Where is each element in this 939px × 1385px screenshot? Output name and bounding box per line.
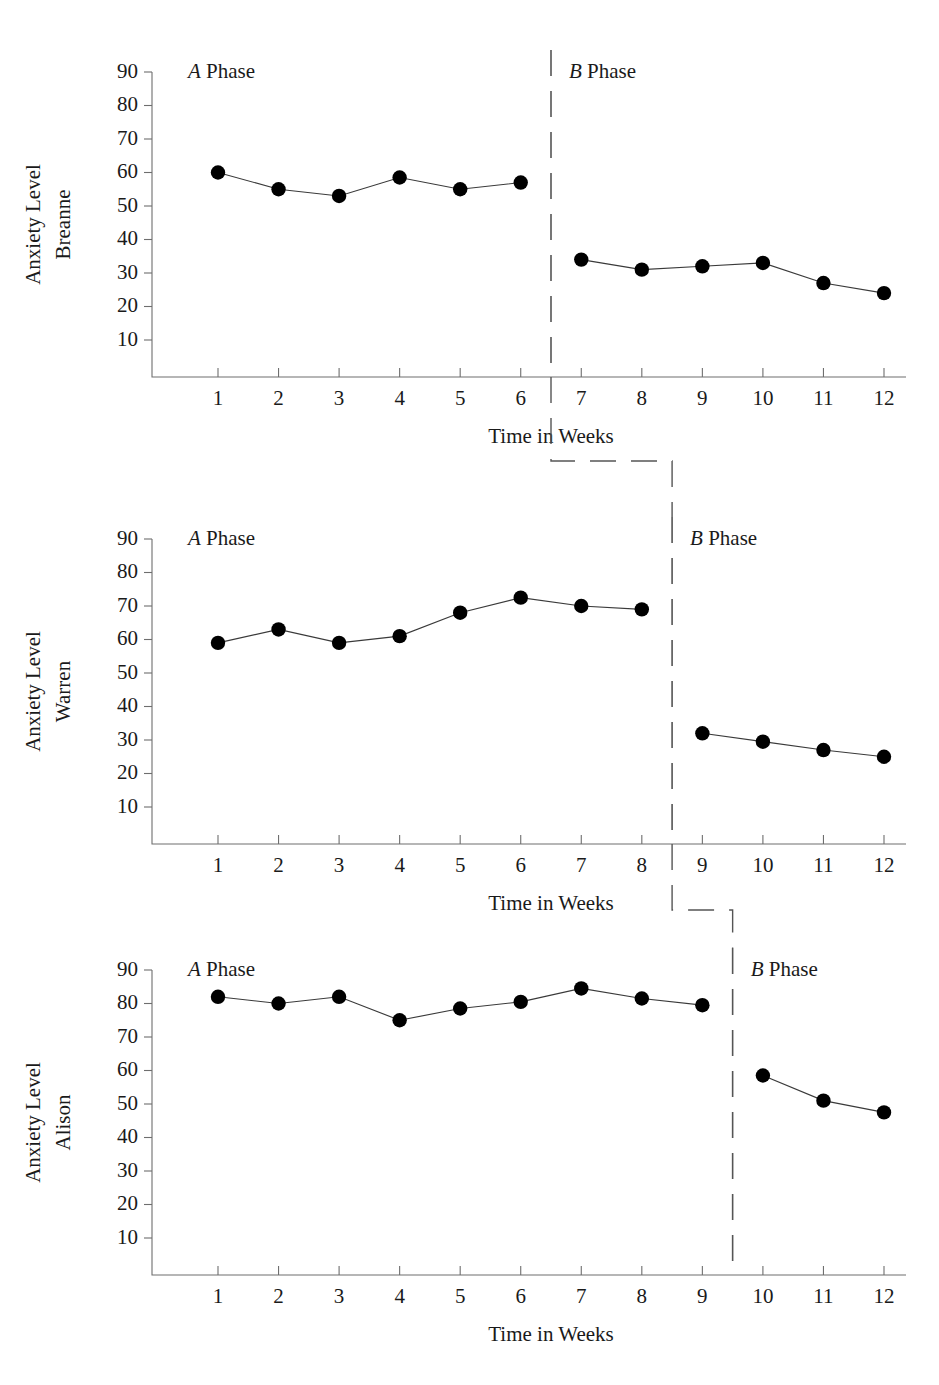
y-tick-label: 60 — [117, 1057, 138, 1081]
data-point — [514, 995, 528, 1009]
y-tick-label: 40 — [117, 226, 138, 250]
data-point — [635, 991, 649, 1005]
y-axis-title-measure: Anxiety Level — [21, 164, 45, 285]
data-point — [514, 590, 528, 604]
series-line — [702, 733, 884, 756]
y-tick-label: 10 — [117, 794, 138, 818]
x-axis-title: Time in Weeks — [488, 1322, 614, 1346]
data-point — [877, 1105, 891, 1119]
data-point — [635, 602, 649, 616]
phase-b-label: B Phase — [690, 526, 757, 550]
y-tick-label: 50 — [117, 193, 138, 217]
y-tick-label: 80 — [117, 92, 138, 116]
data-point — [695, 726, 709, 740]
phase-b-label: B Phase — [569, 59, 636, 83]
panel-alison: 102030405060708090123456789101112Time in… — [0, 928, 939, 1348]
data-point — [514, 175, 528, 189]
y-tick-label: 90 — [117, 59, 138, 83]
x-tick-label: 4 — [394, 1284, 405, 1308]
panel-connector-1 — [0, 377, 939, 517]
data-point — [453, 1001, 467, 1015]
x-tick-label: 11 — [813, 1284, 833, 1308]
panel-connector-2 — [0, 844, 939, 948]
y-tick-label: 90 — [117, 957, 138, 981]
connector-path — [672, 844, 733, 948]
y-tick-label: 40 — [117, 1124, 138, 1148]
data-point — [877, 286, 891, 300]
data-point — [332, 990, 346, 1004]
y-tick-label: 30 — [117, 727, 138, 751]
phase-b-label: B Phase — [751, 957, 818, 981]
connector-path — [551, 377, 672, 517]
x-tick-label: 3 — [334, 1284, 345, 1308]
plot-area-alison: 102030405060708090123456789101112Time in… — [0, 928, 939, 1348]
x-tick-label: 1 — [213, 1284, 224, 1308]
series-line — [581, 260, 884, 294]
data-point — [271, 996, 285, 1010]
data-point — [211, 990, 225, 1004]
phase-a-label: A Phase — [186, 957, 255, 981]
data-point — [271, 622, 285, 636]
multiple-baseline-figure: 102030405060708090123456789101112Time in… — [0, 0, 939, 1385]
data-point — [211, 165, 225, 179]
data-point — [816, 1093, 830, 1107]
x-tick-label: 2 — [273, 1284, 284, 1308]
data-point — [453, 182, 467, 196]
y-tick-label: 80 — [117, 990, 138, 1014]
x-tick-label: 10 — [752, 1284, 773, 1308]
data-point — [332, 189, 346, 203]
y-tick-label: 50 — [117, 660, 138, 684]
y-tick-label: 40 — [117, 693, 138, 717]
phase-a-label: A Phase — [186, 526, 255, 550]
y-tick-label: 60 — [117, 159, 138, 183]
data-point — [816, 276, 830, 290]
x-tick-label: 5 — [455, 1284, 466, 1308]
series-line — [218, 173, 521, 196]
axis-spine — [152, 539, 906, 844]
y-tick-label: 80 — [117, 559, 138, 583]
data-point — [392, 629, 406, 643]
y-tick-label: 20 — [117, 293, 138, 317]
data-point — [635, 262, 649, 276]
x-tick-label: 8 — [637, 1284, 648, 1308]
x-tick-label: 6 — [515, 1284, 526, 1308]
data-point — [211, 636, 225, 650]
data-point — [695, 998, 709, 1012]
y-axis-title-participant: Breanne — [51, 190, 75, 260]
data-point — [756, 1068, 770, 1082]
y-tick-label: 50 — [117, 1091, 138, 1115]
y-tick-label: 70 — [117, 126, 138, 150]
data-point — [574, 252, 588, 266]
data-point — [756, 256, 770, 270]
axis-spine — [152, 72, 906, 377]
y-tick-label: 70 — [117, 1024, 138, 1048]
y-tick-label: 20 — [117, 760, 138, 784]
data-point — [695, 259, 709, 273]
y-tick-label: 60 — [117, 626, 138, 650]
y-axis-title-participant: Alison — [51, 1094, 75, 1151]
y-tick-label: 70 — [117, 593, 138, 617]
data-point — [271, 182, 285, 196]
data-point — [453, 606, 467, 620]
y-tick-label: 30 — [117, 260, 138, 284]
phase-a-label: A Phase — [186, 59, 255, 83]
data-point — [816, 743, 830, 757]
x-tick-label: 12 — [874, 1284, 895, 1308]
x-tick-label: 9 — [697, 1284, 708, 1308]
y-axis-title-measure: Anxiety Level — [21, 631, 45, 752]
data-point — [392, 170, 406, 184]
y-tick-label: 20 — [117, 1191, 138, 1215]
data-point — [756, 734, 770, 748]
data-point — [392, 1013, 406, 1027]
x-tick-label: 7 — [576, 1284, 587, 1308]
y-axis-title-measure: Anxiety Level — [21, 1062, 45, 1183]
y-tick-label: 10 — [117, 1225, 138, 1249]
data-point — [332, 636, 346, 650]
data-point — [574, 599, 588, 613]
y-tick-label: 30 — [117, 1158, 138, 1182]
y-tick-label: 90 — [117, 526, 138, 550]
data-point — [877, 750, 891, 764]
axis-spine — [152, 970, 906, 1275]
y-axis-title-participant: Warren — [51, 660, 75, 722]
y-tick-label: 10 — [117, 327, 138, 351]
